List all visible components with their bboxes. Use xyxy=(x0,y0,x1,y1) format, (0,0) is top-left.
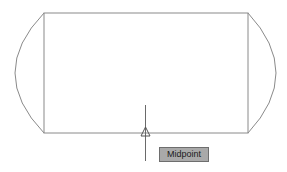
drawing-svg xyxy=(0,0,287,172)
snap-tooltip: Midpoint xyxy=(159,147,209,162)
cad-drawing-canvas[interactable]: Midpoint xyxy=(0,0,287,172)
right-arc-shape[interactable] xyxy=(248,13,276,133)
left-arc-shape[interactable] xyxy=(15,13,44,133)
